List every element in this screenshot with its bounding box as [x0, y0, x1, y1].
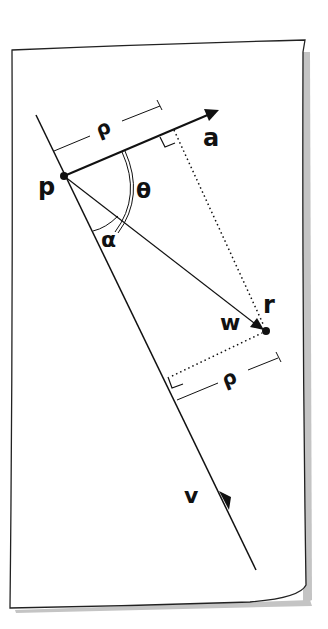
diagram-canvas: p r a v w θ α ρ ρ — [0, 0, 328, 629]
label-a: a — [203, 124, 219, 152]
label-theta: θ — [136, 178, 151, 203]
point-p — [60, 172, 68, 180]
label-v: v — [184, 483, 199, 508]
paper-outline — [10, 40, 306, 608]
label-w: w — [220, 310, 240, 335]
point-r — [262, 327, 270, 335]
label-alpha: α — [101, 227, 116, 252]
label-p: p — [38, 173, 55, 201]
label-r: r — [263, 291, 275, 319]
